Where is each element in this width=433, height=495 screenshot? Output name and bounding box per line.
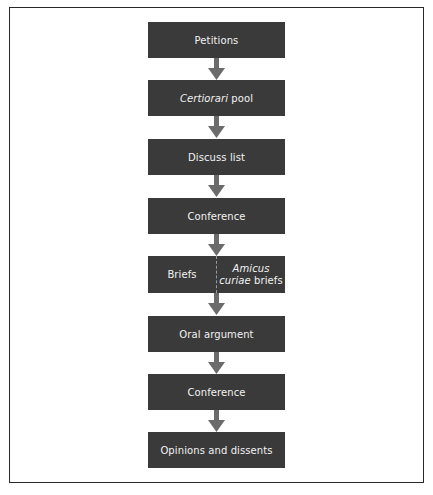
arrow-down-icon — [208, 410, 225, 433]
arrow-down-icon — [208, 175, 225, 198]
step-briefs-left: Briefs — [148, 256, 216, 293]
arrow-down-icon — [208, 116, 225, 139]
arrow-down-icon — [208, 234, 225, 257]
step-label: Conference — [187, 387, 245, 398]
arrow-down-icon — [208, 352, 225, 375]
step-label: Certiorari pool — [180, 93, 253, 104]
step-label-italic: Certiorari — [180, 93, 228, 104]
step-label: Petitions — [195, 35, 239, 46]
step-label: Conference — [187, 211, 245, 222]
arrow-down-icon — [208, 58, 225, 81]
step-amicus-curiae-briefs: Amicus curiae briefs — [217, 256, 285, 293]
step-opinions-and-dissents: Opinions and dissents — [148, 432, 285, 468]
step-conference-2: Conference — [148, 374, 285, 410]
arrow-down-icon — [208, 293, 225, 316]
step-label-rest: pool — [228, 93, 253, 104]
step-label: Oral argument — [179, 329, 253, 340]
step-briefs: Briefs Amicus curiae briefs — [148, 256, 285, 293]
step-oral-argument: Oral argument — [148, 316, 285, 352]
step-label: Amicus curiae briefs — [217, 263, 285, 287]
step-discuss-list: Discuss list — [148, 139, 285, 175]
step-label: Opinions and dissents — [160, 445, 272, 456]
step-petitions: Petitions — [148, 22, 285, 58]
step-conference-1: Conference — [148, 198, 285, 234]
step-label: Briefs — [167, 269, 196, 281]
step-label-rest: briefs — [251, 275, 283, 286]
step-label: Discuss list — [188, 152, 245, 163]
step-certiorari-pool: Certiorari pool — [148, 80, 285, 116]
